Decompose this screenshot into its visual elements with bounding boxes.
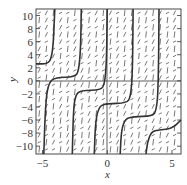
slope-segment xyxy=(89,17,90,23)
slope-segment xyxy=(102,19,105,21)
slope-segment xyxy=(102,118,104,123)
slope-segment xyxy=(67,147,69,152)
slope-segment xyxy=(81,75,83,80)
slope-segment xyxy=(60,132,61,138)
slope-segment xyxy=(152,19,155,21)
slope-segment xyxy=(132,24,133,30)
slope-segment xyxy=(145,75,147,80)
slope-segment xyxy=(88,32,90,37)
slope-segment xyxy=(38,47,40,52)
slope-segment xyxy=(139,17,140,23)
slope-segment xyxy=(59,12,62,14)
y-tick-label: 4 xyxy=(28,49,34,61)
slope-segment xyxy=(45,11,47,16)
slope-segment xyxy=(52,140,54,145)
slope-segment xyxy=(124,10,125,16)
slope-segment xyxy=(145,61,147,66)
slope-segment xyxy=(95,11,97,16)
y-tick-label: −6 xyxy=(21,114,33,126)
slope-segment xyxy=(166,106,169,108)
slope-segment xyxy=(38,142,41,144)
slope-segment xyxy=(173,83,175,88)
slope-segment xyxy=(89,146,90,152)
slope-segment xyxy=(52,149,55,151)
slope-segment xyxy=(67,61,69,66)
slope-segment xyxy=(137,12,140,14)
slope-segment xyxy=(45,149,48,151)
slope-segment xyxy=(80,127,83,129)
slope-segment xyxy=(52,126,54,131)
slope-segment xyxy=(88,111,90,116)
slope-segment xyxy=(153,60,154,66)
slope-segment xyxy=(116,61,118,66)
slope-segment xyxy=(166,133,168,138)
slope-segment xyxy=(173,41,176,43)
slope-segment xyxy=(173,55,176,57)
slope-segment xyxy=(159,98,162,100)
slope-segment xyxy=(66,27,69,29)
slope-segment xyxy=(124,18,126,23)
y-tick-label: −2 xyxy=(21,88,33,100)
slope-segment xyxy=(146,96,147,102)
slope-segment xyxy=(166,12,169,14)
slope-segment xyxy=(110,67,111,73)
slope-segment xyxy=(159,142,162,144)
slope-segment xyxy=(160,39,161,45)
slope-segment xyxy=(145,106,148,108)
slope-segment xyxy=(145,41,148,43)
slope-segment xyxy=(53,10,54,16)
slope-segment xyxy=(173,97,175,102)
slope-segment xyxy=(110,118,111,124)
slope-segment xyxy=(166,62,169,64)
slope-segment xyxy=(152,55,155,57)
slope-segment xyxy=(67,68,69,73)
slope-segment xyxy=(159,127,162,129)
slope-segment xyxy=(130,113,133,115)
slope-segment xyxy=(137,142,140,144)
slope-segment xyxy=(116,68,118,73)
slope-segment xyxy=(102,133,104,138)
slope-segment xyxy=(124,32,126,37)
slope-segment xyxy=(131,133,133,138)
slope-segment xyxy=(137,62,140,64)
slope-field-chart: 1086420−2−4−6−8−10 −505 x y xyxy=(0,0,187,185)
slope-segment xyxy=(102,34,105,36)
slope-segment xyxy=(138,111,140,116)
slope-segment xyxy=(166,27,169,29)
slope-segment xyxy=(110,53,111,59)
slope-segment xyxy=(159,75,161,80)
slope-segment xyxy=(46,75,47,81)
slope-segment xyxy=(89,132,90,138)
slope-segment xyxy=(152,98,155,100)
slope-segment xyxy=(116,91,119,93)
slope-segment xyxy=(137,127,140,129)
slope-segment xyxy=(38,12,41,14)
slope-segment xyxy=(89,67,90,73)
slope-segment xyxy=(109,18,111,23)
slope-segment xyxy=(116,133,118,138)
slope-segment xyxy=(124,90,126,95)
slope-segment xyxy=(95,27,98,29)
slope-segment xyxy=(116,41,119,43)
slope-segment xyxy=(96,139,97,145)
slope-segment xyxy=(39,110,40,116)
slope-segment xyxy=(123,84,126,86)
slope-segment xyxy=(109,127,112,129)
slope-segment xyxy=(45,18,47,23)
slope-segment xyxy=(82,53,83,59)
slope-segment xyxy=(153,75,154,81)
slope-segment xyxy=(173,149,176,151)
slope-segment xyxy=(88,118,90,123)
y-tick-label: 8 xyxy=(28,23,34,35)
slope-segment xyxy=(67,110,68,116)
slope-segment xyxy=(174,139,175,145)
slope-segment xyxy=(102,61,104,66)
slope-segment xyxy=(109,25,111,30)
slope-segment xyxy=(60,18,62,23)
slope-segment xyxy=(82,132,83,138)
x-tick-label: 5 xyxy=(169,157,175,169)
slope-segment xyxy=(88,91,91,93)
slope-segment xyxy=(145,68,147,73)
slope-segment xyxy=(152,118,154,123)
slope-segment xyxy=(166,111,168,116)
